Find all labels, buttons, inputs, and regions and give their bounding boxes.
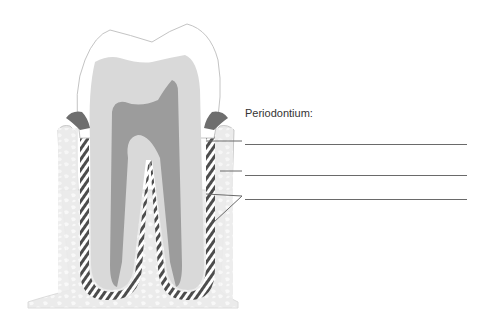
- answer-line-1[interactable]: [245, 144, 467, 145]
- diagram-title: Periodontium:: [245, 107, 313, 119]
- answer-line-3[interactable]: [245, 199, 467, 200]
- answer-line-2[interactable]: [245, 175, 467, 176]
- tooth-diagram: [0, 0, 492, 327]
